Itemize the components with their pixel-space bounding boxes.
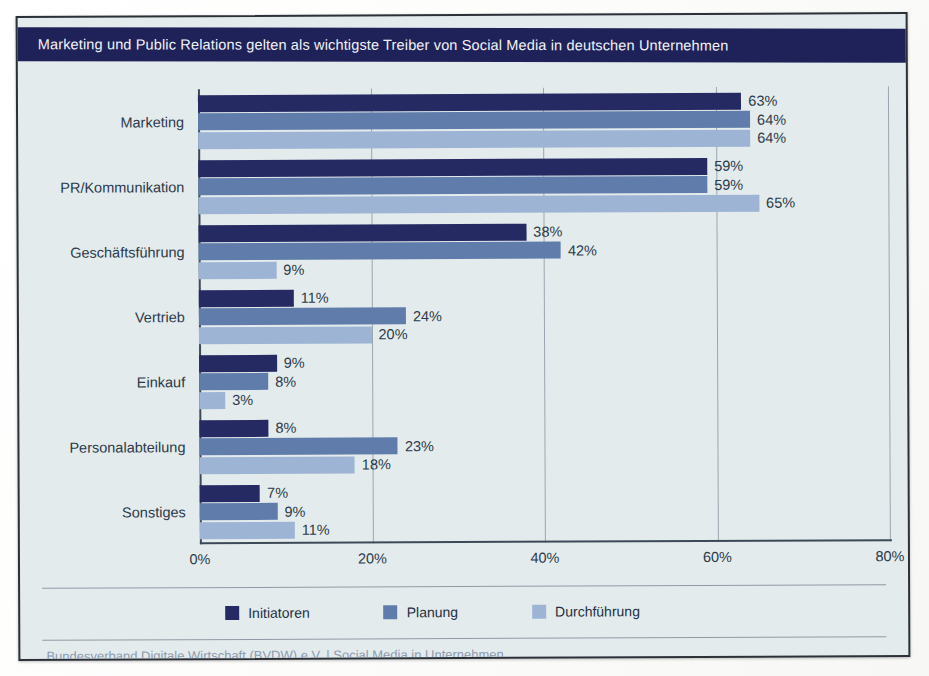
- bar-value-label: 20%: [378, 326, 407, 342]
- bar-fill: [199, 223, 527, 241]
- bar: 9%: [199, 354, 277, 371]
- bar-fill: [199, 261, 277, 278]
- category-label: PR/Kommunikation: [60, 179, 184, 196]
- bar-fill: [198, 194, 759, 213]
- legend-swatch: [532, 605, 546, 619]
- bar: 11%: [200, 521, 295, 538]
- legend-divider-bottom: [42, 636, 886, 641]
- bar: 9%: [199, 261, 277, 278]
- bar: 42%: [199, 242, 561, 261]
- bar-value-label: 11%: [301, 290, 329, 306]
- plot-area: Marketing63%64%64%PR/Kommunikation59%59%…: [198, 86, 890, 544]
- bar: 65%: [198, 194, 759, 213]
- bar-value-label: 23%: [405, 438, 434, 454]
- bar-fill: [198, 129, 750, 148]
- bar-value-label: 63%: [748, 93, 777, 109]
- x-tick-label: 0%: [189, 551, 210, 567]
- bar: 9%: [200, 503, 278, 520]
- bar-value-label: 8%: [275, 420, 296, 436]
- bar: 59%: [198, 157, 707, 176]
- legend-divider-top: [42, 584, 886, 589]
- x-tick-label: 20%: [358, 550, 387, 566]
- bar-group: Geschäftsführung38%42%9%: [198, 216, 888, 284]
- bar-fill: [199, 392, 225, 409]
- bar-fill: [200, 456, 355, 474]
- bar-group: Personalabteilung8%23%18%: [199, 411, 889, 479]
- bar-value-label: 9%: [284, 503, 305, 519]
- bar-value-label: 65%: [766, 195, 795, 211]
- bar: 64%: [198, 129, 750, 148]
- bar: 7%: [200, 484, 260, 501]
- bar-value-label: 59%: [714, 158, 743, 174]
- bar-fill: [199, 307, 406, 325]
- bar-fill: [199, 419, 268, 436]
- category-label: Sonstiges: [122, 504, 186, 520]
- bar-value-label: 11%: [302, 522, 330, 538]
- bar: 38%: [199, 223, 527, 241]
- bar-value-label: 8%: [275, 373, 296, 389]
- bar-group: PR/Kommunikation59%59%65%: [198, 151, 888, 219]
- bar-value-label: 9%: [283, 262, 304, 278]
- bar: 23%: [199, 437, 397, 455]
- bar: 8%: [199, 373, 268, 390]
- bar: 8%: [199, 419, 268, 436]
- bar-fill: [198, 111, 750, 130]
- bar-group: Einkauf9%8%3%: [199, 346, 889, 414]
- legend-item: Durchführung: [532, 603, 640, 619]
- bar: 24%: [199, 307, 406, 325]
- bar-fill: [200, 503, 278, 520]
- bar-value-label: 9%: [284, 355, 305, 371]
- x-tick-label: 40%: [530, 550, 559, 566]
- bar: 11%: [199, 289, 294, 306]
- category-label: Personalabteilung: [69, 439, 185, 456]
- category-label: Marketing: [120, 114, 184, 130]
- bar: 64%: [198, 111, 750, 130]
- bar: 63%: [198, 92, 741, 111]
- chart-title: Marketing und Public Relations gelten al…: [16, 36, 729, 53]
- bar-value-label: 64%: [757, 111, 786, 127]
- category-label: Vertrieb: [135, 309, 185, 325]
- legend-label: Durchführung: [555, 603, 640, 619]
- bar-value-label: 18%: [362, 456, 391, 472]
- bar-fill: [199, 289, 294, 306]
- legend-swatch: [384, 605, 398, 619]
- category-label: Einkauf: [137, 374, 185, 390]
- bar: 3%: [199, 392, 225, 409]
- bar-group: Sonstiges7%9%11%: [200, 476, 890, 544]
- bar-groups: Marketing63%64%64%PR/Kommunikation59%59%…: [198, 86, 888, 89]
- legend-label: Planung: [407, 604, 458, 620]
- bar-group: Vertrieb11%24%20%: [199, 281, 889, 349]
- bar-fill: [198, 176, 707, 195]
- bar: 18%: [200, 456, 355, 474]
- bar-fill: [200, 521, 295, 538]
- legend-item: Planung: [384, 604, 458, 620]
- bar: 59%: [198, 176, 707, 195]
- bar-value-label: 42%: [568, 242, 597, 258]
- legend-swatch: [225, 606, 239, 620]
- x-tick-label: 60%: [703, 549, 732, 565]
- bar-fill: [198, 157, 707, 176]
- bar-fill: [200, 484, 260, 501]
- bar-value-label: 24%: [413, 308, 442, 324]
- bar-value-label: 38%: [533, 224, 562, 240]
- chart-panel: Marketing und Public Relations gelten al…: [16, 12, 911, 661]
- legend-label: Initiatoren: [248, 605, 310, 621]
- source-caption: Bundesverband Digitale Wirtschaft (BVDW)…: [46, 647, 503, 661]
- x-axis-tick-labels: 0%20%40%60%80%: [200, 548, 890, 573]
- bar-value-label: 59%: [714, 176, 743, 192]
- chart-header-bar: Marketing und Public Relations gelten al…: [16, 27, 911, 63]
- x-tick-label: 80%: [875, 548, 904, 564]
- bar-value-label: 3%: [232, 392, 253, 408]
- bar-fill: [199, 373, 268, 390]
- category-label: Geschäftsführung: [70, 244, 185, 260]
- bar-group: Marketing63%64%64%: [198, 86, 888, 154]
- bar-fill: [199, 354, 277, 371]
- bar-fill: [198, 92, 741, 111]
- bar-fill: [199, 326, 372, 344]
- bar-value-label: 64%: [757, 130, 786, 146]
- scanned-page: Marketing und Public Relations gelten al…: [0, 0, 929, 676]
- chart-legend: InitiatorenPlanungDurchführung: [20, 596, 908, 628]
- bar-fill: [199, 437, 397, 455]
- bar-value-label: 7%: [267, 485, 288, 501]
- bar: 20%: [199, 326, 372, 344]
